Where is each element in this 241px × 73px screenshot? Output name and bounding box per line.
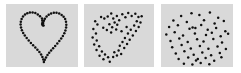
scatter-point — [136, 20, 138, 23]
scatter-point — [41, 19, 44, 22]
scatter-point — [216, 45, 219, 48]
scatter-point — [223, 20, 226, 23]
scatter-point — [62, 16, 65, 18]
scatter-point — [91, 36, 93, 39]
scatter-point — [64, 18, 67, 21]
scatter-point — [198, 14, 201, 17]
scatter-point — [110, 12, 112, 15]
scatter-point — [110, 31, 112, 34]
scatter-point — [219, 35, 222, 38]
scatter-point — [227, 33, 230, 36]
scatter-point — [140, 15, 142, 17]
scatter-point — [127, 32, 129, 35]
scatter-point — [55, 12, 58, 15]
scatter-point — [102, 58, 104, 61]
scatter-point — [203, 19, 206, 22]
scatter-point — [113, 51, 115, 54]
scatter-point — [98, 54, 100, 57]
scatter-point — [133, 24, 135, 27]
scatter-point — [36, 49, 39, 52]
scatter-point — [210, 54, 213, 57]
scatter-point — [22, 15, 25, 18]
scatter-point — [120, 53, 122, 56]
scatter-point — [37, 13, 40, 16]
scatter-point — [116, 15, 118, 18]
scatter-point — [180, 44, 183, 47]
scatter-point — [115, 28, 117, 31]
panel-high-noise — [161, 4, 233, 67]
scatter-point — [65, 26, 68, 29]
scatter-point — [209, 11, 212, 14]
scatter-point — [62, 35, 65, 38]
scatter-point — [220, 56, 223, 59]
scatter-point — [20, 18, 23, 21]
scatter-point — [22, 32, 25, 35]
scatter-point — [42, 24, 45, 27]
scatter-point — [173, 31, 176, 34]
scatter-point — [124, 37, 126, 40]
scatter-point — [106, 29, 108, 32]
scatter-point — [96, 39, 98, 42]
scatter-point — [95, 49, 97, 52]
scatter-point — [121, 13, 123, 16]
scatter-point — [20, 26, 23, 29]
panel-high-noise-scatter — [161, 4, 233, 67]
panel-clean — [6, 4, 78, 67]
scatter-point — [134, 13, 136, 16]
scatter-point — [56, 42, 59, 45]
scatter-point — [65, 21, 68, 24]
scatter-point — [25, 37, 28, 40]
scatter-point — [204, 57, 207, 60]
scatter-point — [219, 52, 222, 55]
scatter-point — [118, 19, 120, 22]
scatter-point — [21, 29, 24, 32]
scatter-point — [127, 12, 129, 15]
scatter-point — [111, 26, 113, 29]
scatter-point — [93, 43, 95, 46]
scatter-point — [41, 56, 44, 59]
scatter-point — [192, 54, 195, 57]
scatter-point — [194, 27, 197, 30]
scatter-point — [48, 52, 51, 55]
scatter-point — [107, 15, 109, 18]
scatter-point — [95, 32, 97, 35]
scatter-point — [24, 13, 27, 16]
scatter-point — [137, 16, 139, 19]
scatter-point — [100, 16, 102, 19]
scatter-point — [213, 59, 216, 62]
scatter-point — [224, 30, 227, 33]
scatter-point — [208, 63, 211, 65]
scatter-point — [194, 32, 197, 35]
scatter-point — [187, 56, 190, 59]
scatter-point — [58, 12, 61, 15]
scatter-point — [168, 26, 171, 29]
scatter-point — [117, 49, 119, 52]
scatter-point — [183, 50, 186, 53]
scatter-point — [177, 58, 180, 61]
scatter-point — [60, 14, 63, 17]
scatter-point — [171, 46, 174, 49]
panel-medium-noise-scatter — [84, 4, 154, 67]
scatter-point — [199, 45, 202, 48]
scatter-point — [123, 47, 125, 50]
scatter-point — [58, 40, 61, 43]
scatter-point — [52, 47, 55, 50]
scatter-point — [96, 23, 98, 26]
scatter-point — [202, 40, 205, 43]
scatter-point — [26, 12, 29, 15]
scatter-point — [190, 47, 193, 50]
scatter-point — [207, 48, 210, 51]
scatter-point — [217, 17, 220, 20]
scatter-point — [102, 27, 104, 30]
scatter-point — [137, 26, 139, 29]
scatter-point — [190, 12, 193, 15]
scatter-point — [178, 37, 181, 40]
scatter-point — [65, 23, 68, 26]
scatter-point — [197, 58, 200, 61]
scatter-point — [64, 29, 67, 32]
scatter-point — [50, 49, 53, 52]
scatter-point — [92, 28, 94, 31]
scatter-point — [120, 30, 122, 33]
scatter-point — [53, 12, 56, 15]
scatter-point — [45, 15, 48, 18]
